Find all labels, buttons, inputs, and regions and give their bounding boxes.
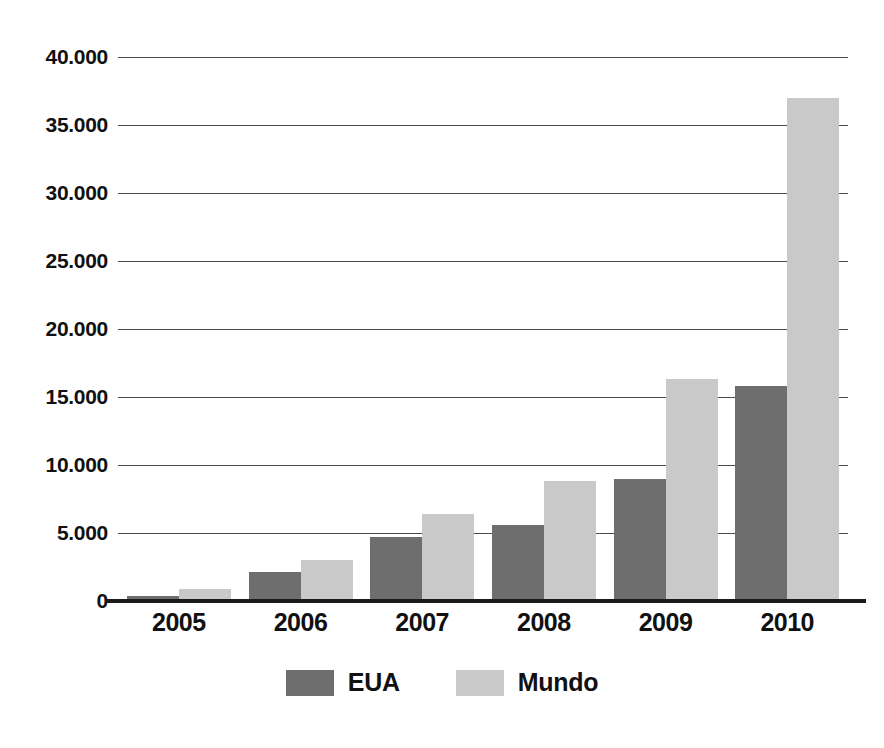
bar-group-2007	[361, 57, 483, 601]
y-axis-tick-label: 35.000	[8, 113, 108, 137]
bar-mundo-2009	[666, 379, 718, 601]
x-axis-tick-label-2008: 2008	[483, 608, 605, 637]
y-axis-tick-labels: 05.00010.00015.00020.00025.00030.00035.0…	[0, 57, 108, 601]
x-axis-tick-label-2007: 2007	[361, 608, 483, 637]
legend-label: EUA	[348, 668, 400, 697]
bar-mundo-2006	[301, 560, 353, 601]
bar-eua-2010	[735, 386, 787, 601]
legend-label: Mundo	[518, 668, 598, 697]
y-axis-tick-label: 10.000	[8, 453, 108, 477]
bar-groups	[118, 57, 848, 601]
bar-mundo-2010	[787, 98, 839, 601]
bar-mundo-2007	[422, 514, 474, 601]
x-axis-tick-label-2006: 2006	[240, 608, 362, 637]
y-axis-tick-label: 0	[8, 589, 108, 613]
bar-chart: 05.00010.00015.00020.00025.00030.00035.0…	[0, 0, 884, 748]
y-axis-tick-label: 15.000	[8, 385, 108, 409]
bar-eua-2006	[249, 572, 301, 601]
x-axis-line	[106, 599, 866, 603]
bar-group-2010	[726, 57, 848, 601]
y-axis-tick-label: 25.000	[8, 249, 108, 273]
chart-legend: EUAMundo	[0, 668, 884, 697]
dark-gray-swatch	[286, 670, 334, 696]
x-axis-tick-label-2009: 2009	[605, 608, 727, 637]
bar-group-2008	[483, 57, 605, 601]
light-gray-swatch	[456, 670, 504, 696]
bar-group-2009	[605, 57, 727, 601]
y-axis-tick-label: 30.000	[8, 181, 108, 205]
y-axis-tick-label: 40.000	[8, 45, 108, 69]
bar-group-2005	[118, 57, 240, 601]
x-axis-tick-labels: 200520062007200820092010	[118, 608, 848, 637]
bar-group-2006	[240, 57, 362, 601]
y-axis-tick-label: 5.000	[8, 521, 108, 545]
legend-item-eua[interactable]: EUA	[286, 668, 400, 697]
bar-mundo-2008	[544, 481, 596, 601]
x-axis-tick-label-2005: 2005	[118, 608, 240, 637]
y-axis-tick-label: 20.000	[8, 317, 108, 341]
x-axis-tick-label-2010: 2010	[726, 608, 848, 637]
legend-item-mundo[interactable]: Mundo	[456, 668, 598, 697]
bar-eua-2009	[614, 479, 666, 601]
bar-eua-2008	[492, 525, 544, 601]
bar-eua-2007	[370, 537, 422, 601]
